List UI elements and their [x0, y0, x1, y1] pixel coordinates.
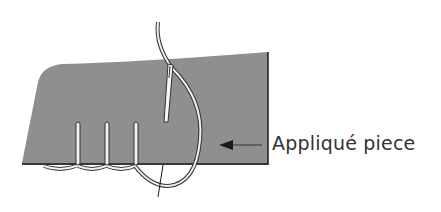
applique-stitch-illustration [0, 0, 441, 212]
applique-piece-label: Appliqué piece [272, 132, 415, 154]
thread-through-fabric [158, 165, 163, 197]
underside-thread [44, 166, 135, 169]
